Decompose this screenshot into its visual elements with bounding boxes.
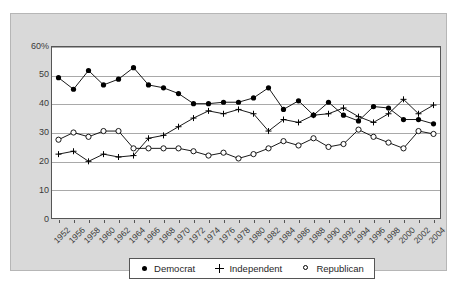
data-point-plus (341, 105, 347, 111)
data-point-filled-circle (266, 85, 271, 90)
y-axis-tick-label: 30 (15, 128, 49, 137)
data-point-filled-circle (416, 117, 421, 122)
data-point-filled-circle (161, 85, 166, 90)
data-point-plus (101, 151, 107, 157)
data-series-layer (51, 46, 441, 219)
filled-circle-icon (140, 264, 149, 273)
data-point-open-circle (71, 130, 76, 135)
data-point-open-circle (326, 144, 331, 149)
series-line-democrat (59, 68, 434, 124)
x-axis-tick (314, 220, 315, 223)
data-point-plus (236, 106, 242, 112)
plus-icon (215, 264, 224, 273)
data-point-open-circle (251, 152, 256, 157)
data-point-plus (296, 119, 302, 125)
chart-panel: 0102030405060% 1952195619581960196219641… (10, 13, 447, 271)
x-axis-tick (224, 220, 225, 223)
data-point-open-circle (176, 146, 181, 151)
data-point-open-circle (146, 146, 151, 151)
data-point-filled-circle (116, 77, 121, 82)
x-axis-tick (389, 220, 390, 223)
data-point-plus (371, 119, 377, 125)
x-axis-labels: 1952195619581960196219641966196819701972… (51, 220, 443, 260)
y-axis-tick-label: 10 (15, 186, 49, 195)
x-axis-tick (404, 220, 405, 223)
data-point-open-circle (221, 150, 226, 155)
data-point-open-circle (281, 139, 286, 144)
data-point-filled-circle (86, 68, 91, 73)
x-axis-tick (359, 220, 360, 223)
data-point-open-circle (191, 149, 196, 154)
x-axis-tick (149, 220, 150, 223)
x-axis-tick (344, 220, 345, 223)
legend-label: Independent (229, 263, 282, 274)
y-axis-tick-label: 60% (15, 42, 49, 51)
data-point-open-circle (86, 134, 91, 139)
data-point-open-circle (401, 146, 406, 151)
data-point-filled-circle (401, 117, 406, 122)
data-point-filled-circle (176, 91, 181, 96)
data-point-filled-circle (386, 105, 391, 110)
x-axis-tick (269, 220, 270, 223)
data-point-open-circle (416, 128, 421, 133)
data-point-filled-circle (431, 121, 436, 126)
data-point-filled-circle (146, 82, 151, 87)
data-point-open-circle (131, 146, 136, 151)
data-point-open-circle (356, 127, 361, 132)
data-point-filled-circle (236, 100, 241, 105)
x-axis-tick (179, 220, 180, 223)
x-axis-tick (119, 220, 120, 223)
legend-item-independent: Independent (215, 263, 282, 274)
data-point-filled-circle (131, 65, 136, 70)
x-axis-tick (89, 220, 90, 223)
data-point-plus (221, 111, 227, 117)
data-point-filled-circle (101, 82, 106, 87)
data-point-open-circle (266, 146, 271, 151)
x-axis-tick (104, 220, 105, 223)
data-point-open-circle (371, 134, 376, 139)
series-line-republican (59, 130, 434, 159)
legend-item-democrat: Democrat (140, 263, 195, 274)
chart-screenshot: 0102030405060% 1952195619581960196219641… (0, 0, 459, 291)
x-axis-tick (209, 220, 210, 223)
x-axis-tick (134, 220, 135, 223)
data-point-open-circle (206, 153, 211, 158)
data-point-filled-circle (326, 100, 331, 105)
data-point-open-circle (56, 137, 61, 142)
data-point-filled-circle (56, 75, 61, 80)
data-point-open-circle (431, 131, 436, 136)
x-axis-tick (419, 220, 420, 223)
x-axis-tick (299, 220, 300, 223)
data-point-open-circle (341, 141, 346, 146)
x-axis-tick (239, 220, 240, 223)
y-axis-labels: 0102030405060% (13, 46, 49, 219)
chart-legend: Democrat Independent Republican (129, 258, 375, 279)
data-point-open-circle (101, 128, 106, 133)
data-point-filled-circle (191, 101, 196, 106)
data-point-open-circle (236, 156, 241, 161)
data-point-filled-circle (341, 113, 346, 118)
x-axis-tick (74, 220, 75, 223)
data-point-filled-circle (371, 104, 376, 109)
data-point-plus (206, 108, 212, 114)
data-point-plus (431, 102, 437, 108)
legend-label: Democrat (154, 263, 195, 274)
data-point-filled-circle (281, 107, 286, 112)
data-point-plus (161, 132, 167, 138)
data-point-open-circle (161, 146, 166, 151)
data-point-filled-circle (71, 87, 76, 92)
y-axis-tick-label: 50 (15, 70, 49, 79)
data-point-open-circle (311, 136, 316, 141)
y-axis-tick-label: 0 (15, 215, 49, 224)
x-axis-tick (164, 220, 165, 223)
data-point-filled-circle (296, 98, 301, 103)
data-point-open-circle (386, 140, 391, 145)
series-line-independent (59, 99, 434, 161)
open-circle-icon (302, 264, 311, 273)
x-axis-tick (329, 220, 330, 223)
y-axis-tick-label: 20 (15, 157, 49, 166)
data-point-filled-circle (251, 95, 256, 100)
data-point-filled-circle (206, 101, 211, 106)
x-axis-tick (434, 220, 435, 223)
data-point-open-circle (116, 128, 121, 133)
